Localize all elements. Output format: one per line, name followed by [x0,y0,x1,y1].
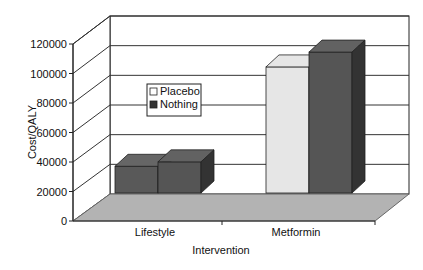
bar-nothing-lifestyle [158,150,214,193]
x-axis: LifestyleMetformin [73,221,375,238]
bar-front-face [266,67,309,193]
x-tick-label: Metformin [272,226,321,238]
bar-nothing-metformin [309,40,365,193]
bar-front-face [309,52,352,193]
floor-plane [73,194,409,221]
legend-label: Placebo [160,85,200,97]
legend-label: Nothing [160,98,198,110]
chart-floor [73,194,409,221]
bar-front-face [158,162,201,193]
y-tick-label: 20000 [36,186,67,198]
y-tick-label: 80000 [36,97,67,109]
y-tick-label: 100000 [30,68,67,80]
bar-side-face [352,40,365,193]
chart: 020000400006000080000100000120000 Lifest… [0,0,423,270]
y-axis-title: Cost/QALY [26,104,38,159]
legend-swatch [150,88,157,95]
legend-swatch [150,101,157,108]
y-tick-label: 60000 [36,127,67,139]
x-axis-title: Intervention [192,244,249,256]
x-tick-label: Lifestyle [135,226,175,238]
y-tick-label: 40000 [36,156,67,168]
legend: PlaceboNothing [147,84,201,116]
bar-front-face [115,166,158,193]
y-tick-label: 120000 [30,38,67,50]
y-tick-label: 0 [61,215,67,227]
